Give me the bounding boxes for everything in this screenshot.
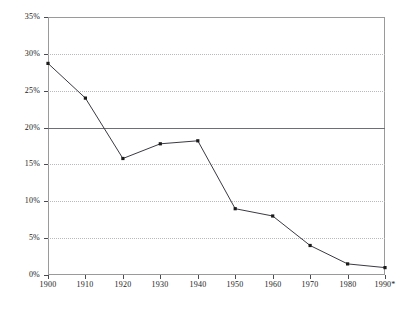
x-tick-mark [198, 275, 199, 279]
gridline-y-10pct [48, 201, 385, 202]
plot-area [48, 17, 385, 275]
x-tick-mark [235, 275, 236, 279]
y-tick-label: 15% [0, 160, 40, 168]
x-tick-mark [348, 275, 349, 279]
y-tick-mark [44, 128, 48, 129]
gridline-y-25pct [48, 91, 385, 92]
y-tick-label: 5% [0, 234, 40, 242]
y-tick-mark [44, 164, 48, 165]
y-tick-mark [44, 17, 48, 18]
x-tick-mark [85, 275, 86, 279]
line-chart: 35%30%25%20%15%10%5%0% 19001910192019301… [0, 0, 400, 313]
x-tick-label: 1990* [363, 281, 400, 289]
gridline-y-15pct [48, 164, 385, 165]
y-tick-mark [44, 91, 48, 92]
y-tick-label: 20% [0, 124, 40, 132]
x-tick-mark [385, 275, 386, 279]
x-tick-mark [273, 275, 274, 279]
y-tick-label: 10% [0, 197, 40, 205]
y-tick-label: 35% [0, 13, 40, 21]
y-tick-mark [44, 201, 48, 202]
gridline-y-20pct [48, 128, 385, 129]
y-tick-label: 25% [0, 87, 40, 95]
y-tick-mark [44, 238, 48, 239]
y-tick-label: 0% [0, 271, 40, 279]
x-tick-mark [310, 275, 311, 279]
x-tick-mark [123, 275, 124, 279]
gridline-y-5pct [48, 238, 385, 239]
y-tick-mark [44, 54, 48, 55]
gridline-y-30pct [48, 54, 385, 55]
y-tick-label: 30% [0, 50, 40, 58]
x-tick-mark [48, 275, 49, 279]
x-tick-mark [160, 275, 161, 279]
